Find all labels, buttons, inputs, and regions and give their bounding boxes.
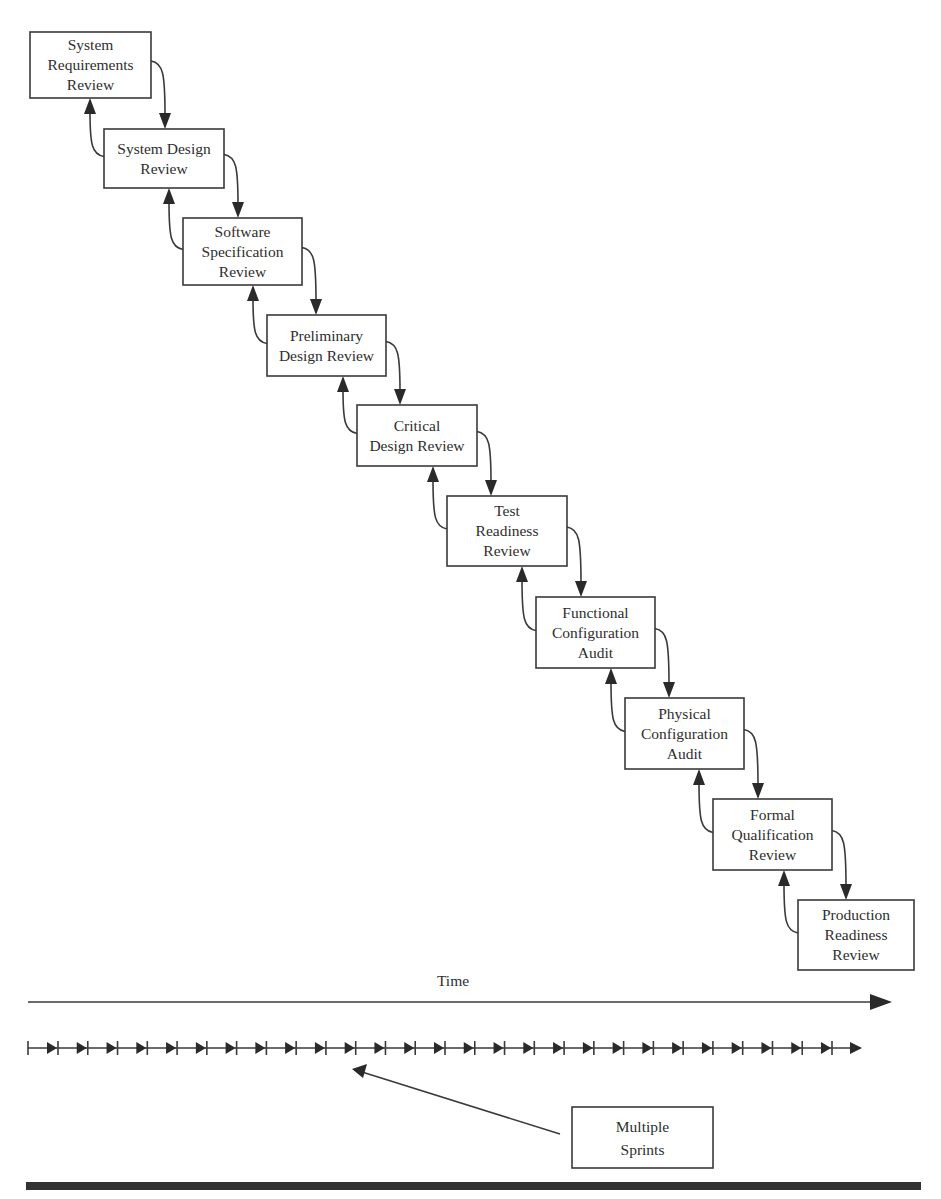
stage-label-line: Preliminary [290,327,363,344]
callout-arrowhead [352,1064,367,1078]
sprint-timeline-arrowhead [850,1042,862,1054]
stage-box [104,129,224,188]
stage-label-line: Formal [750,806,795,823]
stage-label-line: Test [494,502,520,519]
stage-label-line: Production [822,906,890,923]
sprint-marker [821,1041,832,1055]
stage-label-line: Readiness [825,926,888,943]
forward-arrow-line [744,730,758,786]
sprint-marker [47,1041,58,1055]
stage-sdr: System DesignReview [104,129,224,188]
feedback-arrowhead [337,376,349,392]
stage-label-line: Requirements [47,56,133,73]
sprint-marker [77,1041,88,1055]
forward-arrowhead [159,113,171,129]
forward-arrow-line [224,155,238,205]
stage-label-line: Design Review [369,437,465,454]
sprint-marker [196,1041,207,1055]
sprint-marker [166,1041,177,1055]
sprint-marker [583,1041,594,1055]
waterfall-diagram: SystemRequirementsReviewSystem DesignRev… [0,0,941,1199]
feedback-arrow-line [699,783,713,833]
feedback-arrowhead [778,870,790,886]
stage-label-line: System Design [117,140,211,157]
feedback-arrowhead [163,188,175,204]
callout-line-2: Sprints [621,1141,665,1158]
sprint-marker [464,1041,475,1055]
forward-arrow-line [832,831,846,887]
callout-line-1: Multiple [616,1118,670,1135]
stage-label-line: Review [749,846,797,863]
sprint-marker [136,1041,147,1055]
time-axis-label: Time [437,972,469,989]
forward-arrow-line [302,248,316,302]
forward-arrowhead [575,581,587,597]
stage-trr: TestReadinessReview [447,496,567,566]
forward-arrowhead [485,480,497,496]
sprint-marker [107,1041,118,1055]
stage-label-line: Review [832,946,880,963]
sprint-marker [494,1041,505,1055]
feedback-arrowhead [605,668,617,684]
stage-label-line: Audit [667,745,703,762]
feedback-arrowhead [516,566,528,582]
feedback-arrow-line [433,480,447,529]
stage-srr: SystemRequirementsReview [30,32,151,98]
sprint-marker [345,1041,356,1055]
stage-label-line: Software [215,223,271,240]
stage-label-line: Audit [578,644,614,661]
sprint-marker [285,1041,296,1055]
stage-box [357,405,477,466]
sprint-marker [702,1041,713,1055]
stage-label-line: Configuration [552,624,639,641]
stage-label-line: Review [140,160,188,177]
forward-arrowhead [663,682,675,698]
sprint-marker [761,1041,772,1055]
forward-arrow-line [151,61,165,115]
stage-ssr: SoftwareSpecificationReview [183,218,302,285]
feedback-arrow-line [611,682,625,732]
stage-pca: PhysicalConfigurationAudit [625,698,744,769]
feedback-arrow-line [169,202,183,250]
stage-label-line: Readiness [476,522,539,539]
forward-arrow-line [386,342,400,392]
stage-pdr: PreliminaryDesign Review [267,315,386,376]
forward-arrow-line [477,432,491,483]
feedback-arrowhead [84,98,96,114]
stage-label-line: Specification [202,243,284,260]
stage-fqr: FormalQualificationReview [713,799,832,870]
sprint-marker [315,1041,326,1055]
sprint-timeline [28,1041,862,1055]
stage-label-line: Review [483,542,531,559]
feedback-arrowhead [427,466,439,482]
sprint-marker [255,1041,266,1055]
feedback-arrowhead [247,285,259,301]
feedback-arrow-line [90,112,104,157]
stage-label-line: System [68,36,114,53]
sprint-marker [226,1041,237,1055]
stage-prr: ProductionReadinessReview [798,900,914,970]
sprint-marker [613,1041,624,1055]
forward-arrow-line [567,527,581,583]
stage-label-line: Configuration [641,725,728,742]
sprint-marker [374,1041,385,1055]
sprint-marker [791,1041,802,1055]
stage-label-line: Design Review [279,347,375,364]
stage-label-line: Qualification [732,826,814,843]
stage-label-line: Review [67,76,115,93]
forward-arrow-line [655,629,669,685]
sprint-marker [732,1041,743,1055]
stage-label-line: Critical [394,417,441,434]
stage-label-line: Functional [562,604,628,621]
stage-box [267,315,386,376]
feedback-arrow-line [784,884,798,933]
feedback-arrowhead [693,769,705,785]
sprint-marker [672,1041,683,1055]
time-axis-arrowhead [870,994,892,1010]
forward-arrowhead [310,299,322,315]
feedback-arrow-line [343,390,357,434]
sprint-marker [523,1041,534,1055]
forward-arrowhead [840,884,852,900]
sprints-callout: Multiple Sprints [352,1064,713,1168]
stage-cdr: CriticalDesign Review [357,405,477,466]
